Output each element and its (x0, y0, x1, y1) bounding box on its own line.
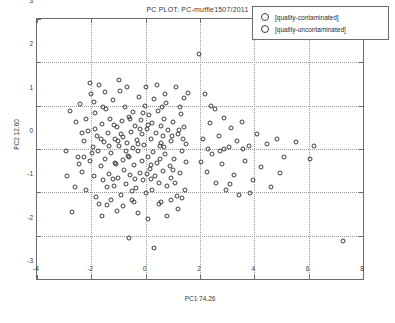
data-point (168, 139, 173, 144)
data-point (160, 134, 165, 139)
data-point (103, 89, 108, 94)
x-tick-label: 8 (360, 265, 364, 272)
data-point (84, 116, 89, 121)
x-tick-label: -2 (87, 265, 93, 272)
data-point (122, 167, 127, 172)
y-tick (37, 19, 41, 20)
data-point (89, 91, 94, 96)
data-point (123, 105, 128, 110)
data-point (92, 127, 97, 132)
data-point (100, 178, 105, 183)
data-point (209, 103, 214, 108)
x-tick (200, 275, 201, 279)
data-point (176, 127, 181, 132)
data-point (185, 90, 190, 95)
data-point (130, 189, 135, 194)
data-point (140, 132, 145, 137)
data-point (99, 136, 104, 141)
x-tick (200, 19, 201, 23)
data-point (121, 204, 126, 209)
data-point (138, 127, 143, 132)
data-point (83, 188, 88, 193)
data-point (124, 85, 129, 90)
data-point (153, 130, 158, 135)
data-point (242, 159, 247, 164)
data-point (128, 129, 133, 134)
data-point (170, 120, 175, 125)
data-point (119, 132, 124, 137)
data-point (179, 195, 184, 200)
data-point (278, 170, 283, 175)
data-point (115, 208, 120, 213)
data-point (127, 235, 132, 240)
data-point (67, 108, 72, 113)
data-point (124, 149, 129, 154)
y-tick (359, 192, 363, 193)
data-point (202, 91, 207, 96)
data-point (149, 188, 154, 193)
data-point (104, 185, 109, 190)
y-tick-label: -3 (27, 257, 33, 264)
data-point (161, 168, 166, 173)
data-point (120, 157, 125, 162)
data-point (117, 88, 122, 93)
gridline-horizontal (37, 62, 363, 63)
data-point (145, 172, 150, 177)
x-tick (146, 275, 147, 279)
data-point (173, 85, 178, 90)
data-point (150, 121, 155, 126)
data-point (90, 144, 95, 149)
data-point (136, 149, 141, 154)
data-point (141, 178, 146, 183)
data-point (108, 116, 113, 121)
data-point (76, 154, 81, 159)
data-point (87, 81, 92, 86)
data-point (163, 91, 168, 96)
x-tick-label: 4 (252, 265, 256, 272)
x-tick (254, 275, 255, 279)
data-point (108, 198, 113, 203)
y-tick (359, 236, 363, 237)
data-point (168, 198, 173, 203)
data-point (161, 145, 166, 150)
data-point (112, 122, 117, 127)
data-point (172, 156, 177, 161)
data-point (63, 149, 68, 154)
data-point (237, 192, 242, 197)
data-point (250, 178, 255, 183)
data-point (81, 139, 86, 144)
data-point (99, 121, 104, 126)
data-point (115, 139, 120, 144)
x-axis-title: PC1 74.26 (36, 295, 364, 302)
plot-area (36, 18, 364, 280)
data-point (117, 77, 122, 82)
data-point (145, 154, 150, 159)
circle-marker-icon (261, 13, 269, 21)
data-point (183, 160, 188, 165)
data-point (240, 120, 245, 125)
y-tick-label: -1 (27, 170, 33, 177)
data-point (162, 116, 167, 121)
data-point (222, 147, 227, 152)
data-point (180, 149, 185, 154)
data-point (131, 109, 136, 114)
data-point (178, 104, 183, 109)
data-point (109, 151, 114, 156)
data-point (234, 139, 239, 144)
data-point (223, 188, 228, 193)
data-point (219, 162, 224, 167)
x-tick (91, 275, 92, 279)
legend-item-contaminated: [quality-contaminated] (257, 11, 384, 23)
gridline-horizontal (37, 106, 363, 107)
data-point (217, 134, 222, 139)
data-point (181, 136, 186, 141)
data-point (145, 127, 150, 132)
circle-marker-icon (261, 25, 269, 33)
x-tick-label: 0 (143, 265, 147, 272)
data-point (87, 159, 92, 164)
data-point (200, 137, 205, 142)
y-tick (359, 106, 363, 107)
y-tick (37, 236, 41, 237)
data-point (181, 125, 186, 130)
data-point (308, 157, 313, 162)
